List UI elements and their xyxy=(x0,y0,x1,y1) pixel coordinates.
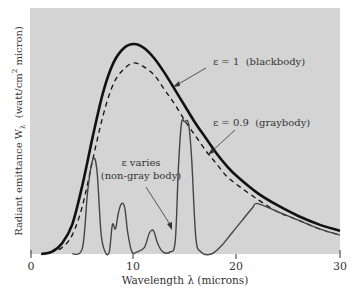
annotation-graybody: ε = 0.9 (graybody) xyxy=(213,117,310,128)
x-tick-label-30: 30 xyxy=(333,260,347,273)
annotation-nongray-line1: ε varies xyxy=(122,157,161,168)
y-axis-label: Radiant emittance Wλ (watt/cm2 micron) xyxy=(11,26,27,236)
plot-area xyxy=(30,8,340,254)
x-tick-label-20: 20 xyxy=(229,260,243,273)
y-axis-label-units: (watt/cm xyxy=(13,73,24,125)
annotation-nongray-line2: (non-gray body) xyxy=(101,170,182,181)
x-axis-label: Wavelength λ (microns) xyxy=(122,274,249,286)
y-axis-label-main: Radiant emittance W xyxy=(13,128,24,236)
chart: 0 10 20 30 Wavelength λ (microns) Radian… xyxy=(0,0,357,294)
annotation-blackbody: ε = 1 (blackbody) xyxy=(213,56,305,67)
y-axis-label-units-post: micron) xyxy=(13,26,24,69)
x-tick-label-10: 10 xyxy=(126,260,140,273)
x-tick-label-0: 0 xyxy=(28,260,35,273)
